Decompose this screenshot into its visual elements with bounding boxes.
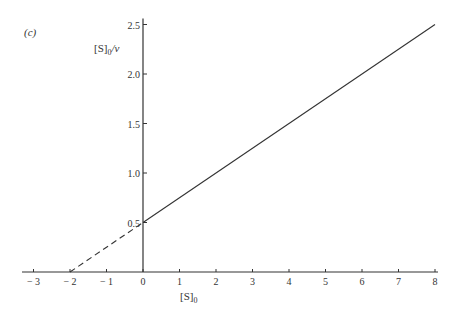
x-tick-label: 2: [214, 276, 219, 287]
x-tick-label: 5: [323, 276, 328, 287]
x-tick-label: 6: [360, 276, 365, 287]
x-axis: − 3− 2− 1012345678: [22, 269, 438, 287]
x-tick-label: 3: [250, 276, 255, 287]
plot-series: [70, 25, 435, 273]
x-axis-label: [S]0: [180, 290, 197, 305]
x-tick-label: − 3: [27, 276, 40, 287]
y-axis: 0.51.01.52.02.5: [128, 19, 148, 273]
x-tick-label: − 2: [63, 276, 76, 287]
x-tick-label: 7: [396, 276, 401, 287]
x-tick-label: − 1: [100, 276, 113, 287]
y-axis-label: [S]0/v: [94, 42, 120, 57]
y-tick-label: 2.5: [128, 20, 141, 31]
y-tick-label: 1.5: [128, 119, 141, 130]
y-tick-label: 0.5: [128, 218, 141, 229]
x-tick-label: 8: [433, 276, 438, 287]
data-line: [143, 25, 435, 223]
x-tick-label: 0: [141, 276, 146, 287]
panel-label: (c): [24, 26, 37, 39]
x-tick-label: 4: [287, 276, 292, 287]
y-tick-label: 2.0: [128, 69, 141, 80]
extrapolation-dashed-line: [70, 223, 143, 273]
x-tick-label: 1: [177, 276, 182, 287]
hanes-woolf-plot: − 3− 2− 1012345678 0.51.01.52.02.5 (c) […: [0, 0, 457, 321]
y-tick-label: 1.0: [128, 168, 141, 179]
